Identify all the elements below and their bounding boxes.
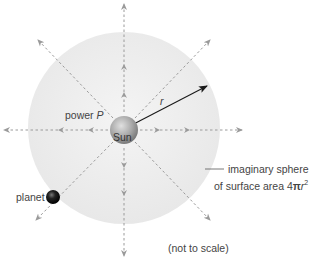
sphere-label-line1: imaginary sphere [228, 163, 309, 175]
sphere-label-line2: of surface area 4πr2 [214, 177, 308, 192]
sphere-label-exp: 2 [304, 179, 308, 186]
sun-label: Sun [113, 131, 132, 143]
planet-label: planet [16, 191, 45, 203]
planet [46, 190, 60, 204]
sphere-label-line2-prefix: of surface area 4 [214, 180, 293, 192]
power-label: power P [65, 109, 104, 121]
sun-radiation-diagram [0, 0, 309, 261]
sphere-label-pi: π [293, 180, 301, 192]
scale-note: (not to scale) [168, 242, 229, 254]
power-symbol: P [97, 109, 104, 121]
radius-label: r [160, 95, 164, 107]
power-label-prefix: power [65, 109, 97, 121]
